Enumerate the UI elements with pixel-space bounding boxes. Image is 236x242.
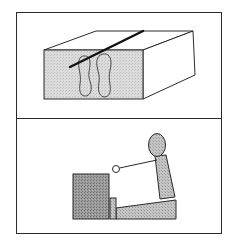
- foot: [110, 198, 116, 219]
- right-footprint-icon: [97, 54, 111, 97]
- hand-marker: [113, 166, 120, 173]
- foot-box: [73, 174, 109, 219]
- figure: [0, 0, 236, 242]
- head: [149, 134, 166, 157]
- box-front-face: [44, 50, 143, 99]
